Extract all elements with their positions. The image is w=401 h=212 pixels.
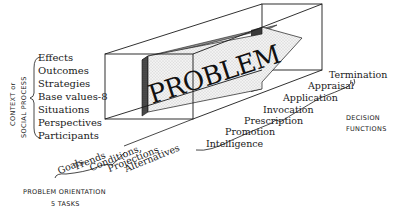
orientation-title-line2: 5 TASKS	[51, 199, 80, 209]
context-item-participants: Participants	[38, 131, 99, 141]
context-item-effects: Effects	[38, 53, 73, 63]
decision-title-line1: DECISION	[346, 113, 380, 123]
decision-item-application: Application	[283, 93, 338, 103]
decision-item-prescription: Prescription	[244, 116, 303, 126]
decision-item-termination: Termination	[329, 70, 387, 80]
context-item-situations: Situations	[38, 105, 89, 115]
orientation-title-line1: PROBLEM ORIENTATION	[23, 187, 106, 197]
decision-title-line2: FUNCTIONS	[346, 124, 387, 134]
decision-item-appraisal: Appraisal	[308, 81, 354, 91]
decision-axis-lines	[124, 119, 193, 146]
decision-item-intelligence: Intelligence	[206, 139, 263, 149]
context-title-line2: SOCIAL PROCESS	[20, 76, 28, 138]
context-item-outcomes: Outcomes	[38, 66, 89, 76]
context-item-strategies: Strategies	[38, 79, 90, 89]
context-item-base-values: Base values-8	[38, 92, 108, 102]
problem-orientation-diagram: PROBLEM CONTEXT or SOCIAL PROCE	[0, 0, 401, 212]
context-title-line1: CONTEXT or	[9, 82, 17, 126]
decision-item-promotion: Promotion	[225, 127, 275, 137]
decision-item-invocation: Invocation	[263, 105, 314, 115]
problem-arrow: PROBLEM	[142, 25, 302, 116]
context-item-perspectives: Perspectives	[38, 118, 102, 128]
